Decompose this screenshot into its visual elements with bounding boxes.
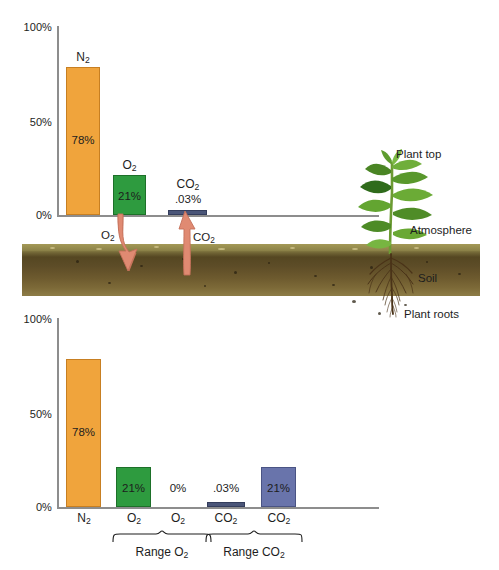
bottom-chart-y-axis [57, 318, 59, 508]
bottom-chart-xlabel-carbon-dioxide-high: CO2 [255, 511, 303, 526]
top-chart-bar-carbon-dioxide-value: .03% [160, 193, 216, 205]
top-chart-bar-nitrogen-label: N2 [60, 50, 106, 65]
soil-speck [204, 285, 206, 287]
plant-top-label: Plant top [396, 148, 441, 160]
soil-speck [234, 271, 237, 274]
oxygen-downward-arrow [112, 213, 162, 279]
bottom-chart-ytick-50: 50% [2, 408, 52, 420]
bottom-chart-bar-oxygen-low-value: 0% [156, 482, 200, 494]
top-chart-bar-oxygen-value: 21% [113, 190, 146, 202]
soil-speck [290, 247, 295, 249]
top-chart-bar-oxygen-label: O2 [107, 158, 152, 173]
bottom-chart-xlabel-oxygen-low: O2 [156, 511, 200, 526]
range-co2-label: Range CO2 [205, 545, 303, 560]
range-o2-bracket [112, 530, 212, 544]
bottom-chart: 100% 50% 0% 78% N2 21% O2 0% O2 .03% CO2… [0, 302, 499, 570]
bottom-chart-bar-nitrogen-value: 78% [66, 426, 101, 438]
bottom-chart-bar-oxygen-high-value: 21% [116, 482, 151, 494]
range-o2-label: Range O2 [112, 545, 212, 560]
soil-speck [332, 284, 335, 286]
bottom-chart-ytick-100: 100% [2, 313, 52, 325]
range-co2-bracket [205, 530, 303, 544]
bottom-chart-xlabel-carbon-dioxide-low: CO2 [202, 511, 250, 526]
soil-speck [314, 275, 317, 277]
bottom-chart-ytick-0: 0% [2, 501, 52, 513]
bottom-chart-bar-carbon-dioxide-high-value: 21% [261, 482, 296, 494]
soil-speck [76, 260, 79, 263]
top-chart-ytick-100: 100% [2, 21, 52, 33]
soil-speck [218, 248, 225, 250]
bottom-chart-xlabel-nitrogen: N2 [62, 511, 106, 526]
carbon-dioxide-flux-label: CO2 [193, 231, 215, 245]
soil-speck [268, 262, 270, 264]
atmosphere-label: Atmosphere [410, 224, 472, 236]
soil-label: Soil [418, 272, 437, 284]
top-chart-y-axis [57, 26, 59, 216]
top-chart-ytick-0: 0% [2, 209, 52, 221]
bottom-chart-bar-carbon-dioxide-low-value: .03% [200, 482, 252, 494]
bottom-chart-xlabel-oxygen-high: O2 [112, 511, 156, 526]
bottom-chart-x-axis [57, 507, 379, 509]
bottom-chart-bar-carbon-dioxide-low[interactable] [207, 502, 245, 507]
figure-canvas: 100% 50% 0% N2 78% O2 21% CO2 .03% [0, 0, 499, 570]
soil-speck [50, 247, 55, 249]
top-chart-x-axis [57, 215, 379, 217]
top-chart-ytick-50: 50% [2, 116, 52, 128]
soil-speck [96, 248, 102, 250]
oxygen-flux-label: O2 [101, 229, 115, 243]
top-chart-bar-carbon-dioxide-label: CO2 [160, 177, 216, 192]
top-chart-bar-nitrogen-value: 78% [66, 134, 100, 146]
soil-speck [108, 282, 111, 284]
